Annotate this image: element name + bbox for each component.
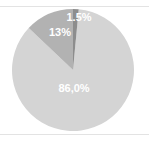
bottom-divider bbox=[0, 134, 149, 135]
pie-label-1-5: 1.5% bbox=[57, 12, 101, 23]
pie-label-86: 86,0% bbox=[46, 83, 102, 94]
pie-label-13: 13% bbox=[41, 27, 79, 38]
pie-chart-figure: 1.5% 13% 86,0% bbox=[0, 0, 149, 145]
